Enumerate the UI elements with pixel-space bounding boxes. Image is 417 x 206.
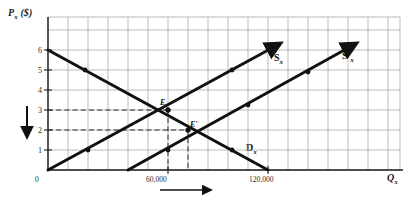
supply-demand-chart: Px ($) Qx 6 5 4 3 2 1 0 60,000 120,000 S… [0,0,417,206]
equilibrium-point-e-prime [185,127,190,132]
chart-canvas [0,0,417,206]
equilibrium-point-e [165,107,170,112]
